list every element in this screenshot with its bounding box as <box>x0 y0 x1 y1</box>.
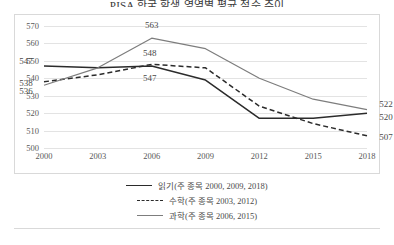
x-axis-tick: 2003 <box>89 152 106 161</box>
chart-legend: 읽기(주 종목 2000, 2009, 2018)수학(주 종목 2003, 2… <box>14 180 380 222</box>
data-label: 536 <box>19 87 33 96</box>
legend-label: 과학(주 종목 2006, 2015) <box>169 212 257 221</box>
legend-item[interactable]: 과학(주 종목 2006, 2015) <box>137 210 257 222</box>
data-label: 547 <box>19 57 33 66</box>
y-axis-tick: 520 <box>26 109 39 118</box>
series-line <box>44 66 367 118</box>
chart-card: PISA 한국 학생 영역별 평균 점수 추이 5005105205305405… <box>0 0 394 245</box>
data-label: 520 <box>379 113 393 122</box>
data-label: 507 <box>379 132 393 141</box>
gridline <box>44 148 367 149</box>
data-label: 547 <box>143 74 157 83</box>
y-axis-tick: 560 <box>26 39 39 48</box>
x-axis-tick: 2000 <box>36 152 53 161</box>
data-label: 548 <box>143 49 157 58</box>
x-axis-tick: 2009 <box>197 152 214 161</box>
legend-item[interactable]: 읽기(주 종목 2000, 2009, 2018) <box>126 180 267 192</box>
y-axis-tick: 570 <box>26 22 39 31</box>
series-line <box>44 38 367 109</box>
data-label: 563 <box>145 21 159 30</box>
data-label: 522 <box>379 99 393 108</box>
series-lines <box>44 26 367 148</box>
bottom-divider <box>14 228 380 229</box>
legend-label: 수학(주 종목 2003, 2012) <box>169 197 257 206</box>
y-axis-tick: 510 <box>26 126 39 135</box>
x-axis-tick: 2012 <box>251 152 268 161</box>
x-axis-tick: 2018 <box>359 152 376 161</box>
chart-title: PISA 한국 학생 영역별 평균 점수 추이 <box>0 0 394 7</box>
legend-item[interactable]: 수학(주 종목 2003, 2012) <box>137 195 257 207</box>
plot-area: 500510520530540550560570 200020032006200… <box>44 26 367 148</box>
legend-label: 읽기(주 종목 2000, 2009, 2018) <box>158 182 267 191</box>
x-axis-tick: 2006 <box>143 152 160 161</box>
x-axis-tick: 2015 <box>305 152 322 161</box>
